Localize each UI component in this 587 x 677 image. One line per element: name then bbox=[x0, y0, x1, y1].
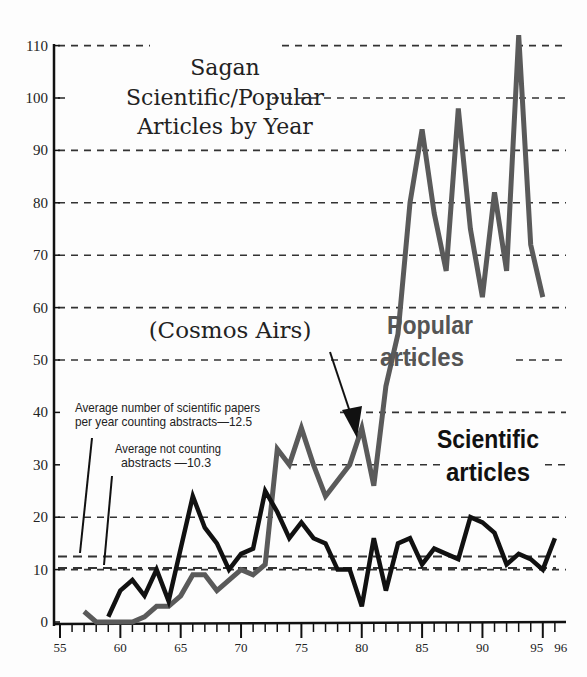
sagan-articles-chart: 0102030405060708090100110 55606570758085… bbox=[0, 0, 587, 677]
y-tick-label: 10 bbox=[33, 562, 48, 578]
y-tick-label: 70 bbox=[33, 247, 48, 263]
y-tick-label: 100 bbox=[26, 90, 49, 106]
y-tick-label: 90 bbox=[33, 142, 48, 158]
cosmos-airs-annotation: (Cosmos Airs) bbox=[149, 317, 312, 343]
popular-articles-label: Popular bbox=[387, 311, 473, 339]
chart-title-line-3: Articles by Year bbox=[136, 114, 313, 139]
x-tick-label: 95 bbox=[530, 640, 543, 655]
x-tick-label: 55 bbox=[54, 640, 67, 655]
x-tick-label: 65 bbox=[174, 640, 187, 655]
x-tick-label: 60 bbox=[114, 640, 127, 655]
x-tick-label: 70 bbox=[235, 640, 248, 655]
y-tick-label: 50 bbox=[33, 352, 48, 368]
x-tick-label: 75 bbox=[295, 640, 308, 655]
y-tick-label: 20 bbox=[33, 509, 48, 525]
y-tick-label: 60 bbox=[33, 300, 48, 316]
x-tick-label: 85 bbox=[416, 640, 429, 655]
avg-no-abstracts-note-line-2: abstracts —10.3 bbox=[121, 455, 211, 470]
avg-no-abstracts-pointer bbox=[104, 476, 112, 565]
cosmos-arrow-line bbox=[330, 352, 352, 418]
chart-title-line-1: Sagan bbox=[190, 55, 260, 80]
y-tick-label: 80 bbox=[33, 195, 48, 211]
x-tick-label: 90 bbox=[476, 640, 489, 655]
popular-articles-label-2: articles bbox=[380, 343, 464, 371]
avg-no-abstracts-note-line-1: Average not counting bbox=[115, 441, 221, 456]
chart-title-line-2: Scientific/Popular bbox=[126, 85, 324, 110]
x-axis-ticks: 55606570758085909596 bbox=[54, 623, 568, 655]
y-tick-label: 110 bbox=[26, 38, 48, 54]
avg-abstracts-note-line-1: Average number of scientific papers bbox=[75, 400, 260, 415]
scientific-articles-label-2: articles bbox=[446, 458, 530, 486]
avg-abstracts-pointer bbox=[80, 438, 92, 553]
avg-abstracts-note-line-2: per year counting abstracts—12.5 bbox=[75, 414, 252, 429]
y-tick-label: 0 bbox=[41, 614, 49, 630]
y-tick-label: 30 bbox=[33, 457, 48, 473]
x-tick-label: 96 bbox=[554, 640, 568, 655]
x-tick-label: 80 bbox=[355, 640, 368, 655]
y-tick-label: 40 bbox=[33, 404, 48, 420]
scientific-articles-label: Scientific bbox=[437, 425, 539, 453]
